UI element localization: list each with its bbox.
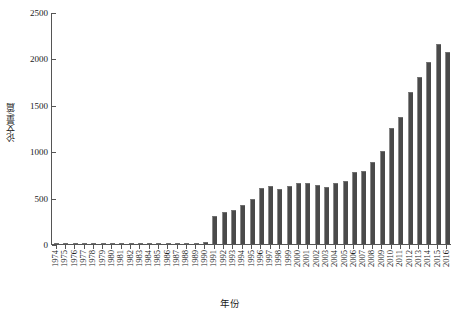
x-axis-title: 年份 xyxy=(0,296,459,310)
bar xyxy=(408,92,413,244)
x-axis-tick-mark xyxy=(111,245,112,249)
x-axis-tick-mark xyxy=(93,245,94,249)
x-axis-tick-label: 1981 xyxy=(116,250,125,267)
bars-layer xyxy=(52,13,451,244)
y-axis-tick-label: 2500 xyxy=(30,9,48,18)
x-axis-tick-mark xyxy=(167,245,168,249)
x-axis-tick-labels: 1974197519761977197819791980198119821983… xyxy=(51,250,451,294)
x-axis-tick-mark xyxy=(186,245,187,249)
bar xyxy=(417,77,422,244)
y-axis-tick-label: 1000 xyxy=(30,148,48,157)
bar xyxy=(212,216,217,244)
bar xyxy=(315,185,320,244)
x-axis-tick-mark xyxy=(400,245,401,249)
x-axis-tick-mark xyxy=(372,245,373,249)
x-axis-tick-mark xyxy=(84,245,85,249)
x-axis-tick-mark xyxy=(307,245,308,249)
x-axis-tick-mark xyxy=(298,245,299,249)
x-axis-tick-mark xyxy=(223,245,224,249)
x-axis-tick-mark xyxy=(418,245,419,249)
y-axis-tick-label: 0 xyxy=(44,241,49,250)
x-axis-tick-label: 2011 xyxy=(395,250,404,267)
y-axis-tick-mark xyxy=(52,199,56,200)
x-axis-tick-mark xyxy=(316,245,317,249)
x-axis-tick-mark xyxy=(363,245,364,249)
x-axis-tick-mark xyxy=(65,245,66,249)
bar xyxy=(370,162,375,244)
bar xyxy=(324,187,329,244)
bar xyxy=(101,243,106,244)
bar xyxy=(305,183,310,244)
x-axis-tick-mark xyxy=(251,245,252,249)
x-axis-tick-mark xyxy=(353,245,354,249)
x-axis-tick-label: 1991 xyxy=(209,250,218,267)
y-axis-tick-labels: 05001000150020002500 xyxy=(14,0,48,252)
bar xyxy=(129,243,134,244)
bar xyxy=(361,171,366,244)
x-axis-tick-mark xyxy=(335,245,336,249)
bar xyxy=(91,243,96,244)
bar xyxy=(240,205,245,244)
bar xyxy=(426,62,431,244)
x-axis-tick-label: 1994 xyxy=(237,250,246,267)
y-axis-tick-mark xyxy=(52,13,56,14)
bar xyxy=(333,183,338,244)
bar xyxy=(231,210,236,244)
bar xyxy=(175,243,180,244)
bar-chart-figure: 论文量/篇 05001000150020002500 1974197519761… xyxy=(0,0,459,318)
bar xyxy=(343,181,348,244)
x-axis-tick-mark xyxy=(149,245,150,249)
bar xyxy=(203,242,208,244)
plot-area xyxy=(51,13,451,245)
bar xyxy=(54,243,59,244)
y-axis-tick-label: 2000 xyxy=(30,55,48,64)
x-axis-tick-mark xyxy=(428,245,429,249)
bar xyxy=(287,186,292,244)
y-axis-tick-label: 500 xyxy=(35,194,49,203)
bar xyxy=(110,243,115,244)
bar xyxy=(296,183,301,244)
y-axis-tick-mark xyxy=(52,59,56,60)
bar xyxy=(73,243,78,244)
bar xyxy=(445,52,450,244)
x-axis-tick-mark xyxy=(158,245,159,249)
bar xyxy=(277,189,282,244)
x-axis-tick-mark xyxy=(139,245,140,249)
bar xyxy=(250,199,255,244)
bar xyxy=(389,128,394,244)
x-axis-tick-mark xyxy=(121,245,122,249)
bar xyxy=(259,188,264,244)
bar xyxy=(352,172,357,244)
bar xyxy=(156,243,161,244)
bar xyxy=(184,243,189,244)
bar xyxy=(436,44,441,244)
x-axis-tick-mark xyxy=(409,245,410,249)
x-axis-tick-mark xyxy=(391,245,392,249)
x-axis-tick-label: 1978 xyxy=(88,250,97,267)
x-axis-tick-label: 2004 xyxy=(330,250,339,267)
bar xyxy=(268,186,273,244)
x-axis-tick-mark xyxy=(288,245,289,249)
x-axis-tick-label: 2014 xyxy=(423,250,432,267)
bar xyxy=(147,243,152,244)
x-axis-tick-mark xyxy=(232,245,233,249)
x-axis-tick-mark xyxy=(437,245,438,249)
x-axis-tick-mark xyxy=(260,245,261,249)
x-axis-tick-label: 2016 xyxy=(442,250,451,267)
bar xyxy=(222,212,227,244)
x-axis-tick-mark xyxy=(195,245,196,249)
bar xyxy=(166,243,171,244)
x-axis-tick-mark xyxy=(56,245,57,249)
bar xyxy=(138,243,143,244)
y-axis-tick-label: 1500 xyxy=(30,101,48,110)
bar xyxy=(398,117,403,244)
x-axis-tick-mark xyxy=(177,245,178,249)
x-axis-tick-mark xyxy=(214,245,215,249)
bar xyxy=(380,151,385,244)
x-axis-tick-mark xyxy=(344,245,345,249)
x-axis-tick-mark xyxy=(204,245,205,249)
x-axis-tick-mark xyxy=(325,245,326,249)
bar xyxy=(82,243,87,244)
x-axis-tick-mark xyxy=(130,245,131,249)
x-axis-tick-label: 2001 xyxy=(302,250,311,267)
